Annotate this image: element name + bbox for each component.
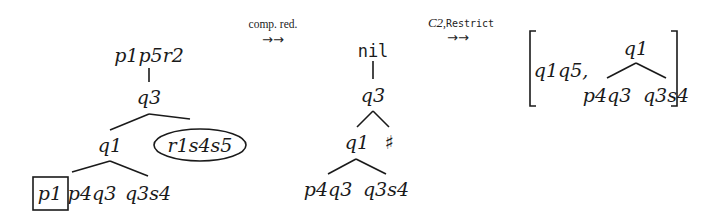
edge-q1-p4q3 [328,159,356,174]
tree1-q3: q3 [137,88,161,107]
two-headed-arrow-icon: →→ [447,31,469,44]
tree2-q3s4: q3s4 [363,180,409,199]
sharp-icon: ♯ [384,133,393,152]
step2-label: C2,Restrict [428,16,494,30]
tree1-root: p1p5r2 [114,46,184,65]
tree1-boxed-p1: p1 [38,184,62,203]
step2-label-c2: C2 [428,15,443,30]
step1-label: comp. red. [249,19,298,31]
result-p4q3: p4q3 [583,86,632,105]
edge-q3-ellipse [149,114,190,119]
edge-q1-q3s4 [356,159,386,174]
result-q1q5: q1q5, [534,61,589,80]
edge-q1-q3s4 [110,161,148,176]
tree2-p4q3: p4q3 [304,180,353,199]
edge-q1-q3s4 [636,63,666,78]
edge-q3-q1 [357,111,373,127]
edge-q3-q1 [110,114,149,130]
tree2-q3: q3 [361,86,385,105]
edge-q1-p4q3 [607,63,636,78]
edge-q1-p4q3 [72,161,110,172]
tree1-p4q3: p4q3 [68,184,117,203]
result-q3s4: q3s4 [643,86,689,105]
tree1-ellipse-node: r1s4s5 [168,136,233,155]
step2-label-restrict: Restrict [446,18,494,29]
edge-q3-sharp [373,111,389,127]
diagram-canvas: p1p5r2 q3 q1 r1s4s5 p1 p4q3 q3s4 comp. r… [0,0,709,221]
tree1-q1: q1 [98,136,122,155]
result-q1: q1 [624,39,648,58]
tree2-q1: q1 [345,133,369,152]
two-headed-arrow-icon: →→ [262,33,284,46]
tree1-q3s4: q3s4 [125,184,171,203]
tree2-nil: nil [358,43,389,60]
